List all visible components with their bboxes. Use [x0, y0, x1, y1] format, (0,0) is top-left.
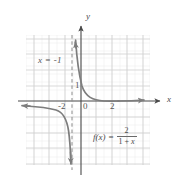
equation-equals: =: [109, 132, 114, 142]
y-axis-label: y: [86, 12, 90, 21]
curve-right-branch-main: [76, 40, 119, 101]
equation-fraction: 2 1 + x: [117, 127, 137, 146]
x-tick-label-0: 0: [83, 102, 88, 111]
equation-numerator: 2: [123, 127, 131, 136]
curve-left-branch-arrow-left: [22, 106, 30, 107]
denominator-constant: 1 +: [119, 137, 132, 146]
denominator-variable: x: [131, 137, 135, 146]
curve-right-branch-arrow-top: [75, 42, 76, 48]
curve-right-branch: [118, 100, 144, 101]
x-tick-label-neg2: -2: [58, 102, 66, 111]
function-graph-figure: x y -2 0 2 1 x = -1 f(x) = 2 1 + x: [0, 0, 180, 184]
y-tick-label-1: 1: [75, 81, 80, 90]
graph-canvas: [0, 0, 180, 184]
asymptote-label: x = -1: [38, 56, 62, 65]
function-equation: f(x) = 2 1 + x: [93, 127, 137, 146]
equation-lhs: f(x): [93, 132, 106, 142]
x-tick-label-2: 2: [110, 102, 115, 111]
curve-left-branch-main: [26, 106, 71, 158]
equation-denominator: 1 + x: [117, 137, 137, 146]
x-axis-label: x: [167, 95, 171, 104]
